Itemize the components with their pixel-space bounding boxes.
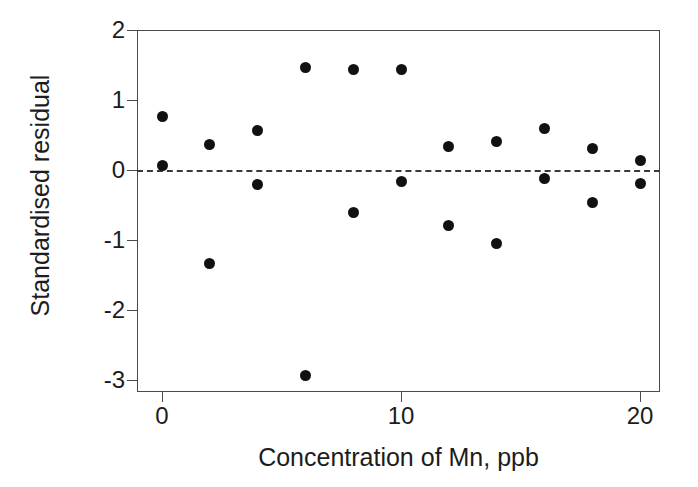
data-point <box>587 143 598 154</box>
y-tick-label: -2 <box>85 298 125 322</box>
y-tick-mark <box>127 380 137 381</box>
y-tick-mark <box>127 30 137 31</box>
x-tick-mark <box>401 392 402 402</box>
x-tick-label: 0 <box>132 404 192 428</box>
data-point <box>539 173 550 184</box>
residual-scatter-figure: Standardised residual 210-1-2-3 01020 Co… <box>0 0 698 487</box>
data-point <box>539 123 550 134</box>
x-tick-label: 20 <box>610 404 670 428</box>
data-point <box>348 207 359 218</box>
plot-area <box>137 30 660 392</box>
zero-reference-line <box>137 170 660 172</box>
y-tick-label: 1 <box>85 88 125 112</box>
x-tick-label: 10 <box>371 404 431 428</box>
data-point <box>396 64 407 75</box>
x-tick-mark <box>640 392 641 402</box>
data-point <box>157 160 168 171</box>
x-axis-label: Concentration of Mn, ppb <box>137 443 660 472</box>
x-tick-mark <box>162 392 163 402</box>
y-tick-mark <box>127 170 137 171</box>
y-tick-mark <box>127 310 137 311</box>
data-point <box>491 136 502 147</box>
data-point <box>587 197 598 208</box>
data-point <box>396 176 407 187</box>
y-tick-label: 2 <box>85 18 125 42</box>
data-point <box>157 111 168 122</box>
y-tick-mark <box>127 100 137 101</box>
data-point <box>348 64 359 75</box>
y-axis-label: Standardised residual <box>26 6 55 386</box>
y-tick-label: -1 <box>85 228 125 252</box>
y-tick-mark <box>127 240 137 241</box>
data-point <box>300 62 311 73</box>
data-point <box>204 258 215 269</box>
y-tick-label: 0 <box>85 158 125 182</box>
data-point <box>635 178 646 189</box>
y-tick-label: -3 <box>85 368 125 392</box>
data-point <box>635 155 646 166</box>
